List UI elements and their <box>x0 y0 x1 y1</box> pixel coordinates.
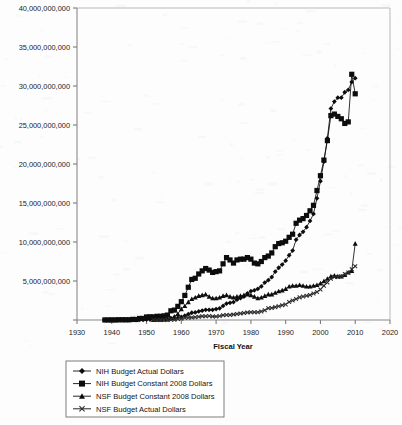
x-tick-label: 2000 <box>312 328 328 337</box>
x-tick-label: 2010 <box>347 328 363 337</box>
legend-label: NSF Budget Constant 2008 Dollars <box>96 392 215 401</box>
x-tick-label: 1940 <box>104 328 120 337</box>
x-axis-title: Fiscal Year <box>213 342 253 351</box>
x-tick-label: 1960 <box>173 328 189 337</box>
y-tick-label: 35,000,000,000 <box>19 43 70 52</box>
x-tick-label: 1930 <box>69 328 85 337</box>
legend-label: NIH Budget Actual Dollars <box>96 367 184 376</box>
x-tick-label: 1970 <box>208 328 224 337</box>
chart-container: 5,000,000,00010,000,000,00015,000,000,00… <box>0 0 402 425</box>
x-tick-label: 1990 <box>277 328 293 337</box>
budget-line-chart: 5,000,000,00010,000,000,00015,000,000,00… <box>0 0 402 425</box>
legend-label: NIH Budget Constant 2008 Dollars <box>96 379 213 388</box>
legend-label: NSF Budget Actual Dollars <box>96 405 186 414</box>
y-tick-label: 25,000,000,000 <box>19 121 70 130</box>
y-tick-label: 15,000,000,000 <box>19 199 70 208</box>
y-tick-label: 5,000,000,000 <box>23 277 70 286</box>
x-tick-label: 1950 <box>138 328 154 337</box>
x-tick-label: 2020 <box>382 328 398 337</box>
x-tick-label: 1980 <box>243 328 259 337</box>
y-tick-label: 30,000,000,000 <box>19 82 70 91</box>
y-tick-label: 20,000,000,000 <box>19 160 70 169</box>
y-tick-label: 40,000,000,000 <box>19 4 70 13</box>
chart-legend: NIH Budget Actual DollarsNIH Budget Cons… <box>66 361 224 417</box>
y-tick-label: 10,000,000,000 <box>19 238 70 247</box>
